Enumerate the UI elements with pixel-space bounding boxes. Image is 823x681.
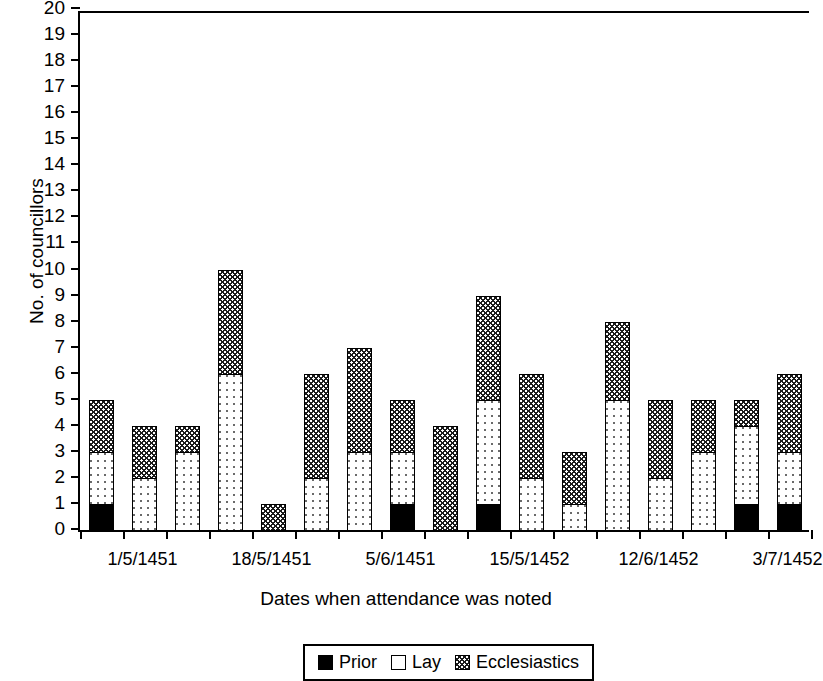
- bar-segment-ecclesiastics: [218, 270, 244, 374]
- bar-group[interactable]: [777, 374, 803, 530]
- x-axis-tick-label: 15/5/1452: [489, 549, 569, 570]
- y-axis-tick-label: 9: [54, 285, 65, 305]
- y-axis-tick: 9: [71, 294, 80, 296]
- bar-segment-lay: [347, 452, 373, 530]
- bar-group[interactable]: [390, 400, 416, 530]
- bar-segment-prior: [734, 504, 760, 530]
- prior-swatch: [318, 655, 333, 670]
- x-axis-tick-label: 18/5/1451: [231, 549, 311, 570]
- bar-group[interactable]: [562, 452, 588, 530]
- y-axis-tick-label: 0: [54, 519, 65, 539]
- bar-group[interactable]: [605, 322, 631, 530]
- bar-group[interactable]: [261, 504, 287, 530]
- y-axis-tick: 19: [71, 33, 80, 35]
- bars-layer: [80, 13, 809, 530]
- bar-segment-lay: [132, 478, 158, 530]
- x-axis-tick: [80, 530, 82, 539]
- x-axis-tick: [209, 530, 211, 539]
- bar-segment-lay: [89, 452, 115, 504]
- y-axis-tick: 4: [71, 424, 80, 426]
- bar-segment-ecclesiastics: [175, 426, 201, 452]
- bar-group[interactable]: [304, 374, 330, 530]
- y-axis-tick: 7: [71, 346, 80, 348]
- y-axis-tick-label: 14: [44, 154, 65, 174]
- x-axis-tick-label: 3/7/1452: [752, 549, 822, 570]
- bar-segment-lay: [777, 452, 803, 504]
- x-axis-tick: [768, 530, 770, 539]
- bar-segment-ecclesiastics: [691, 400, 717, 452]
- bar-segment-ecclesiastics: [261, 504, 287, 530]
- y-axis-tick: 6: [71, 372, 80, 374]
- bar-group[interactable]: [691, 400, 717, 530]
- legend-label: Lay: [412, 652, 441, 673]
- x-axis-tick: [811, 530, 813, 539]
- legend-entry: Prior: [318, 652, 377, 673]
- bar-group[interactable]: [347, 348, 373, 530]
- bar-segment-ecclesiastics: [433, 426, 459, 530]
- bar-group[interactable]: [89, 400, 115, 530]
- y-axis-tick: 0: [71, 528, 80, 530]
- bar-segment-prior: [390, 504, 416, 530]
- bar-segment-lay: [734, 426, 760, 504]
- y-axis-tick-label: 4: [54, 415, 65, 435]
- y-axis-tick: 15: [71, 137, 80, 139]
- x-axis-tick: [682, 530, 684, 539]
- y-axis-tick: 11: [71, 241, 80, 243]
- bar-group[interactable]: [648, 400, 674, 530]
- y-axis-tick-label: 3: [54, 441, 65, 461]
- y-axis-tick: 16: [71, 111, 80, 113]
- bar-segment-lay: [691, 452, 717, 530]
- bar-segment-ecclesiastics: [89, 400, 115, 452]
- y-axis-tick: 20: [71, 7, 80, 9]
- x-axis-tick: [295, 530, 297, 539]
- bar-group[interactable]: [519, 374, 545, 530]
- x-axis-tick: [639, 530, 641, 539]
- bar-segment-lay: [605, 400, 631, 530]
- bar-segment-prior: [476, 504, 502, 530]
- legend-label: Ecclesiastics: [476, 652, 579, 673]
- x-axis-tick: [166, 530, 168, 539]
- x-axis-tick: [553, 530, 555, 539]
- bar-segment-lay: [519, 478, 545, 530]
- y-axis-tick-label: 20: [44, 0, 65, 18]
- y-axis-tick: 18: [71, 59, 80, 61]
- bar-group[interactable]: [734, 400, 760, 530]
- x-axis-title: Dates when attendance was noted: [0, 588, 812, 610]
- bar-segment-ecclesiastics: [734, 400, 760, 426]
- y-axis-tick-label: 15: [44, 128, 65, 148]
- bar-segment-ecclesiastics: [132, 426, 158, 478]
- y-axis-tick-label: 16: [44, 102, 65, 122]
- x-axis-tick: [424, 530, 426, 539]
- y-axis-tick: 3: [71, 450, 80, 452]
- y-axis-tick: 13: [71, 189, 80, 191]
- bar-segment-ecclesiastics: [777, 374, 803, 452]
- y-axis-tick-label: 18: [44, 50, 65, 70]
- bar-segment-lay: [648, 478, 674, 530]
- y-axis-tick: 8: [71, 320, 80, 322]
- x-axis-tick: [123, 530, 125, 539]
- bar-group[interactable]: [175, 426, 201, 530]
- bar-segment-prior: [89, 504, 115, 530]
- y-axis-tick-label: 19: [44, 24, 65, 44]
- y-axis-tick-label: 10: [44, 259, 65, 279]
- bar-group[interactable]: [433, 426, 459, 530]
- y-axis-tick-label: 2: [54, 467, 65, 487]
- x-axis-tick: [338, 530, 340, 539]
- bar-segment-ecclesiastics: [519, 374, 545, 478]
- bar-segment-ecclesiastics: [304, 374, 330, 478]
- bar-group[interactable]: [132, 426, 158, 530]
- y-axis-tick-label: 7: [54, 337, 65, 357]
- bar-group[interactable]: [476, 296, 502, 530]
- x-axis-tick-label: 5/6/1451: [365, 549, 435, 570]
- chart-legend: PriorLayEcclesiastics: [303, 644, 594, 681]
- plot-area: 01234567891011121314151617181920: [78, 11, 809, 532]
- bar-segment-lay: [218, 374, 244, 530]
- legend-label: Prior: [339, 652, 377, 673]
- bar-segment-ecclesiastics: [648, 400, 674, 478]
- y-axis-tick-label: 13: [44, 180, 65, 200]
- y-axis-tick: 14: [71, 163, 80, 165]
- x-axis-tick: [381, 530, 383, 539]
- y-axis-tick: 5: [71, 398, 80, 400]
- bar-group[interactable]: [218, 270, 244, 530]
